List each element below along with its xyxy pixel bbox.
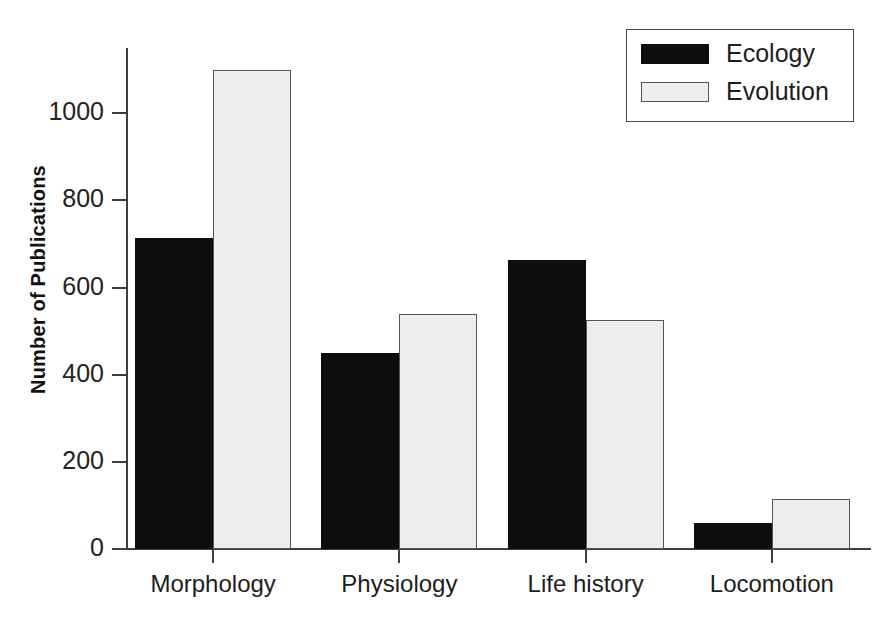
legend-label-evolution: Evolution xyxy=(726,78,829,105)
y-tick-mark xyxy=(112,199,126,201)
legend-item-ecology: Ecology xyxy=(641,40,815,67)
x-tick-mark xyxy=(398,549,400,563)
y-tick-mark xyxy=(112,287,126,289)
y-tick-mark xyxy=(112,374,126,376)
y-tick-mark xyxy=(112,112,126,114)
y-tick-label: 200 xyxy=(0,448,104,473)
y-tick-label: 400 xyxy=(0,361,104,386)
legend-item-evolution: Evolution xyxy=(641,78,829,105)
bar-chart-figure: Number of Publications 02004006008001000… xyxy=(0,0,877,625)
y-tick-mark xyxy=(112,548,126,550)
legend-label-ecology: Ecology xyxy=(726,40,815,67)
bar-evolution-life-history xyxy=(586,320,664,549)
x-tick-label: Locomotion xyxy=(682,570,862,598)
y-tick-label: 800 xyxy=(0,186,104,211)
bar-ecology-physiology xyxy=(321,353,399,549)
bar-evolution-morphology xyxy=(213,70,291,549)
y-tick-label: 0 xyxy=(0,535,104,560)
bar-ecology-morphology xyxy=(135,238,213,549)
y-tick-label: 1000 xyxy=(0,99,104,124)
legend-swatch-ecology xyxy=(641,44,709,64)
bars-layer xyxy=(126,48,871,549)
bar-ecology-life-history xyxy=(508,260,586,549)
x-tick-label: Physiology xyxy=(309,570,489,598)
x-tick-label: Morphology xyxy=(123,570,303,598)
legend-swatch-evolution xyxy=(641,82,709,102)
legend: Ecology Evolution xyxy=(626,29,854,122)
x-tick-label: Life history xyxy=(496,570,676,598)
bar-evolution-physiology xyxy=(399,314,477,549)
y-tick-label: 600 xyxy=(0,274,104,299)
bar-evolution-locomotion xyxy=(772,499,850,549)
x-tick-mark xyxy=(771,549,773,563)
y-tick-mark xyxy=(112,461,126,463)
x-tick-mark xyxy=(212,549,214,563)
x-tick-mark xyxy=(585,549,587,563)
bar-ecology-locomotion xyxy=(694,523,772,549)
